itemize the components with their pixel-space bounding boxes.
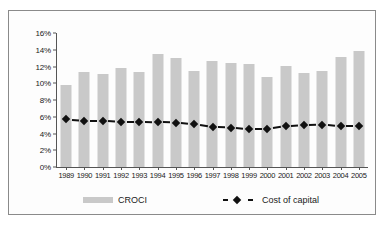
y-axis-tick-label: 14% (36, 45, 51, 54)
legend-item-croci: CROCI (83, 191, 147, 209)
y-axis-tick-label: 6% (40, 112, 51, 121)
x-axis-tick-marks (57, 11, 368, 216)
x-axis-tick-label: 1998 (223, 171, 239, 180)
x-axis-tick-label: 1990 (77, 171, 93, 180)
x-axis-tick-mark (286, 167, 287, 170)
x-axis-tick-mark (249, 167, 250, 170)
x-axis-tick-mark (121, 167, 122, 170)
x-axis-tick-mark (103, 167, 104, 170)
chart-legend: CROCI Cost of capital (9, 191, 377, 209)
x-axis-tick-label: 2002 (296, 171, 312, 180)
bar-swatch-icon (83, 197, 113, 203)
x-axis-tick-label: 1999 (241, 171, 257, 180)
x-axis-tick-labels: 1989199019911992199319941995199619971998… (57, 171, 368, 185)
x-axis-tick-label: 1991 (95, 171, 111, 180)
x-axis-tick-label: 2001 (278, 171, 294, 180)
x-axis-tick-mark (158, 167, 159, 170)
x-axis-tick-label: 1989 (58, 171, 74, 180)
y-axis-tick-label: 10% (36, 79, 51, 88)
x-axis-tick-mark (176, 167, 177, 170)
y-axis-tick-label: 16% (36, 29, 51, 38)
y-axis-tick-label: 12% (36, 62, 51, 71)
chart-plot-wrapper: 0%2%4%6%8%10%12%14%16% 19891990199119921… (9, 11, 377, 216)
x-axis-tick-mark (231, 167, 232, 170)
x-axis-tick-mark (267, 167, 268, 170)
x-axis-tick-mark (213, 167, 214, 170)
x-axis-tick-label: 2004 (333, 171, 349, 180)
x-axis-tick-mark (304, 167, 305, 170)
x-axis-tick-mark (322, 167, 323, 170)
x-axis-tick-mark (359, 167, 360, 170)
legend-label-cost-of-capital: Cost of capital (262, 195, 319, 205)
x-axis-tick-label: 1995 (168, 171, 184, 180)
dashed-diamond-line-icon (223, 196, 257, 204)
y-axis-tick-label: 4% (40, 129, 51, 138)
y-axis-tick-labels: 0%2%4%6%8%10%12%14%16% (23, 11, 51, 216)
y-axis-tick-label: 2% (40, 146, 51, 155)
x-axis-tick-label: 1997 (205, 171, 221, 180)
x-axis-tick-label: 1994 (150, 171, 166, 180)
y-axis-tick-label: 0% (40, 163, 51, 172)
y-axis-tick-label: 8% (40, 96, 51, 105)
x-axis-tick-label: 1993 (132, 171, 148, 180)
x-axis-tick-label: 1996 (186, 171, 202, 180)
x-axis-tick-mark (194, 167, 195, 170)
x-axis-tick-mark (139, 167, 140, 170)
legend-label-croci: CROCI (118, 195, 147, 205)
x-axis-tick-mark (341, 167, 342, 170)
x-axis-tick-label: 2005 (351, 171, 367, 180)
x-axis-tick-mark (66, 167, 67, 170)
chart-figure: 0%2%4%6%8%10%12%14%16% 19891990199119921… (8, 10, 376, 215)
x-axis-tick-label: 2003 (315, 171, 331, 180)
x-axis-tick-mark (84, 167, 85, 170)
x-axis-tick-label: 2000 (260, 171, 276, 180)
legend-item-cost-of-capital: Cost of capital (223, 191, 319, 209)
x-axis-tick-label: 1992 (113, 171, 129, 180)
